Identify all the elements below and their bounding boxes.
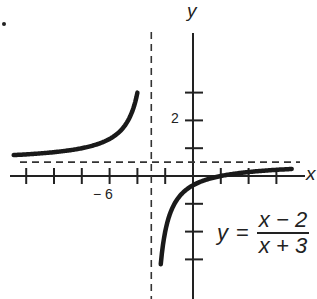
item-bullet	[2, 22, 6, 26]
y-tick-label-2: 2	[171, 110, 179, 126]
x-axis-label: x	[306, 163, 316, 185]
equation-fraction: x − 2 x + 3	[257, 208, 309, 258]
equation-denominator: x + 3	[257, 234, 309, 258]
x-tick-label-neg6: − 6	[93, 186, 113, 202]
equation-label: y = x − 2 x + 3	[217, 208, 309, 258]
curve-left-branch	[14, 93, 138, 155]
equation-lhs: y	[217, 220, 228, 246]
equation-numerator: x − 2	[257, 208, 309, 232]
equation-equals: =	[236, 220, 249, 246]
axes	[10, 33, 305, 299]
y-axis-label: y	[187, 0, 197, 22]
